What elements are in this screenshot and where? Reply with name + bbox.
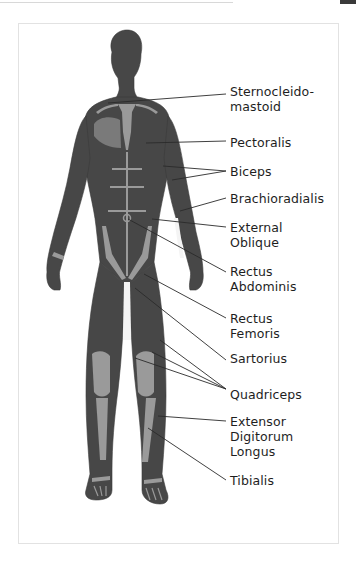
arm-left [47,116,90,290]
leader-line-extensor-digitorum-longus [158,416,226,421]
label-sartorius: Sartorius [230,351,287,366]
groin-gap [123,282,131,340]
knee-right [136,351,154,396]
body-silhouette [47,30,203,504]
label-quadriceps: Quadriceps [230,387,302,402]
abs-line-3 [108,210,146,212]
label-biceps: Biceps [230,164,272,179]
label-extensor-digitorum-longus: Extensor Digitorum Longus [230,414,293,459]
label-brachioradialis: Brachioradialis [230,191,324,206]
label-rectus-femoris: Rectus Femoris [230,311,280,341]
label-sternocleidomastoid: Sternocleido- mastoid [230,84,314,114]
abs-line-2 [110,186,144,188]
abs-line-1 [112,168,142,170]
label-external-oblique: External Oblique [230,220,283,250]
head [111,30,142,98]
label-rectus-abdominis: Rectus Abdominis [230,264,297,294]
label-tibialis: Tibialis [230,473,274,488]
leader-line-quadriceps [160,340,226,389]
label-pectoralis: Pectoralis [230,135,291,150]
knee-left [92,351,110,396]
